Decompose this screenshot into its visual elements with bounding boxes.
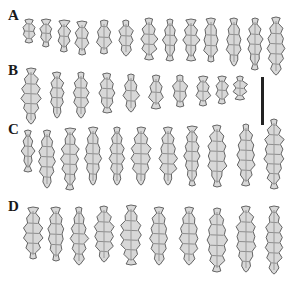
sclerite — [99, 73, 115, 113]
sclerite — [120, 205, 141, 265]
sclerite — [58, 20, 71, 52]
sclerite — [119, 20, 133, 56]
sclerite — [109, 127, 125, 185]
sclerite — [39, 130, 56, 188]
row-label-d: D — [8, 199, 19, 214]
sclerite — [149, 75, 164, 109]
sclerite — [233, 76, 247, 100]
sclerite — [247, 18, 263, 70]
sclerite — [24, 207, 44, 259]
sclerite — [21, 68, 41, 124]
sclerite — [183, 19, 200, 61]
sclerite — [48, 207, 64, 261]
sclerite-drawings — [0, 0, 293, 282]
sclerite — [84, 127, 101, 185]
sclerite — [23, 19, 35, 43]
sclerite — [40, 19, 52, 47]
sclerite — [131, 127, 151, 185]
row-label-b: B — [8, 63, 18, 78]
sclerite — [184, 126, 200, 186]
sclerite — [236, 206, 256, 272]
sclerite — [21, 130, 35, 172]
sclerite — [179, 207, 198, 265]
sclerite — [123, 74, 140, 112]
sclerite-figure-plate: A B C D — [0, 0, 293, 282]
sclerite — [162, 19, 177, 61]
row-label-c: C — [8, 122, 19, 137]
sclerite — [159, 127, 178, 185]
row-label-a: A — [8, 8, 19, 23]
sclerite — [216, 76, 229, 104]
sclerite — [173, 75, 188, 107]
sclerite — [61, 128, 80, 190]
sclerite — [75, 21, 89, 55]
sclerite — [70, 207, 89, 265]
sclerite — [50, 72, 64, 118]
sclerite — [141, 18, 158, 60]
sclerite — [196, 76, 211, 106]
sclerite — [264, 119, 284, 189]
sclerite — [237, 124, 255, 186]
sclerite — [73, 72, 89, 118]
sclerite — [265, 206, 282, 274]
sclerite — [94, 206, 114, 262]
sclerite — [204, 18, 218, 62]
sclerite — [150, 207, 168, 265]
scale-bar — [261, 77, 264, 125]
sclerite — [267, 17, 285, 75]
sclerite — [97, 20, 112, 54]
sclerite — [226, 18, 241, 66]
sclerite — [207, 208, 228, 272]
sclerite — [208, 125, 227, 187]
